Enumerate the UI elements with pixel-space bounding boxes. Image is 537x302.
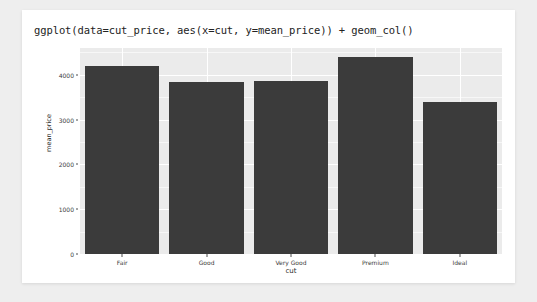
chart-figure: mean_price 01000200030004000 FairGoodVer…: [30, 48, 507, 275]
plot-card: ggplot(data=cut_price, aes(x=cut, y=mean…: [22, 10, 515, 283]
x-tick-mark: [206, 254, 207, 257]
y-tick-label: 0: [70, 251, 74, 258]
x-tick-mark: [459, 254, 460, 257]
x-tick-mark: [122, 254, 123, 257]
y-tick-label: 2000: [59, 161, 74, 168]
y-tick-mark: [76, 119, 79, 120]
y-tick-mark: [76, 209, 79, 210]
x-tick-label: Very Good: [275, 259, 306, 266]
bar-ideal: [423, 102, 497, 254]
x-tick-label: Ideal: [452, 259, 467, 266]
y-tick-mark: [76, 254, 79, 255]
y-tick-mark: [76, 164, 79, 165]
x-tick-label: Premium: [362, 259, 389, 266]
plot-title: ggplot(data=cut_price, aes(x=cut, y=mean…: [34, 24, 414, 36]
x-axis-tick-labels: FairGoodVery GoodPremiumIdeal: [80, 254, 502, 268]
x-axis-label: cut: [80, 267, 502, 275]
bar-very-good: [254, 81, 328, 254]
y-axis-tick-labels: 01000200030004000: [50, 48, 78, 254]
x-tick-label: Good: [199, 259, 215, 266]
y-tick-mark: [76, 74, 79, 75]
plot-panel: [80, 48, 502, 254]
x-tick-mark: [375, 254, 376, 257]
x-tick-label: Fair: [117, 259, 128, 266]
bar-premium: [338, 57, 412, 254]
x-tick-mark: [291, 254, 292, 257]
y-tick-label: 4000: [59, 71, 74, 78]
y-tick-label: 1000: [59, 206, 74, 213]
bar-fair: [85, 66, 159, 254]
y-tick-label: 3000: [59, 116, 74, 123]
bar-good: [169, 82, 243, 254]
